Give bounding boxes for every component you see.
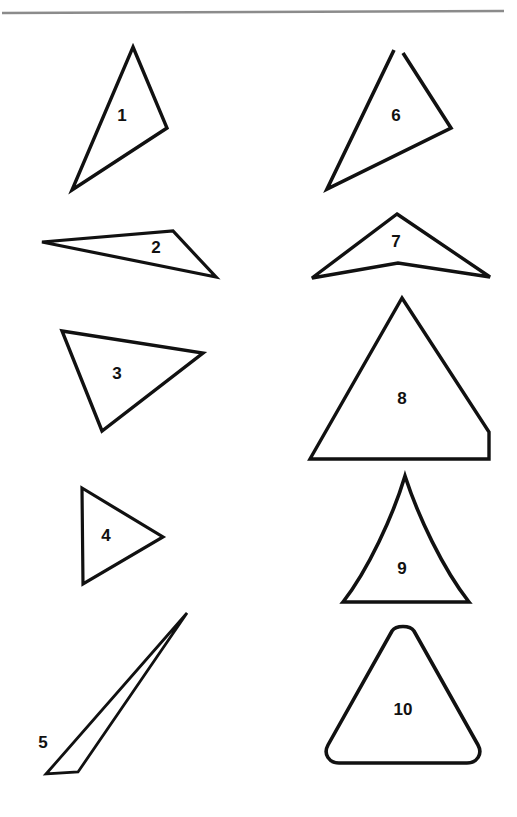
figure-8-outline bbox=[310, 298, 489, 459]
figure-9-label: 9 bbox=[397, 559, 406, 578]
figure-3-label: 3 bbox=[112, 364, 121, 383]
figure-4-outline bbox=[82, 488, 163, 584]
figure-8: 8 bbox=[310, 298, 489, 459]
figure-6: 6 bbox=[327, 50, 451, 189]
figure-10-label: 10 bbox=[394, 700, 413, 719]
figure-4-label: 4 bbox=[101, 526, 111, 545]
figure-6-label: 6 bbox=[391, 106, 400, 125]
figure-9-outline bbox=[343, 476, 469, 602]
figure-9: 9 bbox=[343, 476, 469, 602]
figure-2-outline bbox=[42, 231, 216, 277]
figure-6-outline bbox=[327, 50, 451, 189]
figure-2-label: 2 bbox=[151, 238, 160, 257]
figure-10: 10 bbox=[326, 627, 480, 764]
figure-5-outline bbox=[46, 613, 187, 774]
figure-8-label: 8 bbox=[397, 389, 406, 408]
horizontal-rule bbox=[2, 11, 504, 13]
figure-1: 1 bbox=[72, 47, 167, 190]
figure-2: 2 bbox=[42, 231, 216, 277]
figure-5-label: 5 bbox=[38, 733, 47, 752]
figure-3: 3 bbox=[62, 331, 203, 431]
figure-7-outline bbox=[312, 214, 490, 278]
figure-3-outline bbox=[62, 331, 203, 431]
figure-7: 7 bbox=[312, 214, 490, 278]
figure-4: 4 bbox=[82, 488, 163, 584]
figures-canvas: 1 2 3 4 5 6 7 bbox=[0, 0, 517, 817]
figure-1-label: 1 bbox=[117, 106, 126, 125]
figure-10-outline bbox=[326, 627, 480, 764]
figure-7-label: 7 bbox=[391, 232, 400, 251]
worksheet-page: 1 2 3 4 5 6 7 bbox=[0, 0, 517, 817]
figure-5: 5 bbox=[38, 613, 187, 774]
